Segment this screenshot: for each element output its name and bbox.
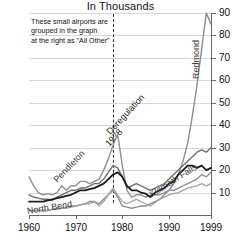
series-label-redmond: Redmond [191,40,201,79]
chart-container: In Thousands 102030405060708090 19601970… [0,0,241,243]
